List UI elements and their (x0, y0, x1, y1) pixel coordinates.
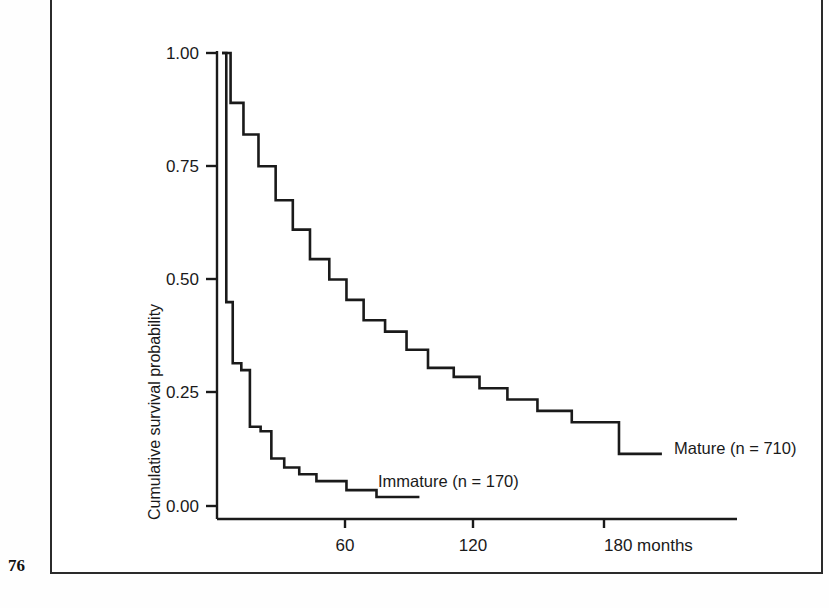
book-page: 76 1.00 0.75 0.50 0.25 0.00 (0, 0, 829, 608)
curve-mature (222, 53, 662, 454)
series-label-mature: Mature (n = 710) (674, 439, 796, 457)
survival-curve-figure: 1.00 0.75 0.50 0.25 0.00 60 120 180 mont… (0, 0, 829, 608)
x-tick-label-1: 120 (459, 536, 487, 555)
y-axis-title: Cumulative survival probability (146, 304, 163, 520)
y-tick-label-0: 0.00 (166, 497, 199, 516)
curve-immature (222, 53, 419, 497)
x-tick-label-2: 180 months (604, 536, 693, 555)
y-tick-label-3: 0.75 (166, 157, 199, 176)
y-tick-label-2: 0.50 (166, 270, 199, 289)
x-axis-ticks (345, 519, 604, 528)
chart-svg: 1.00 0.75 0.50 0.25 0.00 60 120 180 mont… (0, 0, 829, 608)
y-axis-ticks (206, 53, 217, 506)
x-tick-label-0: 60 (336, 536, 355, 555)
y-tick-label-1: 0.25 (166, 383, 199, 402)
y-tick-label-4: 1.00 (166, 44, 199, 63)
series-label-immature: Immature (n = 170) (378, 472, 519, 490)
